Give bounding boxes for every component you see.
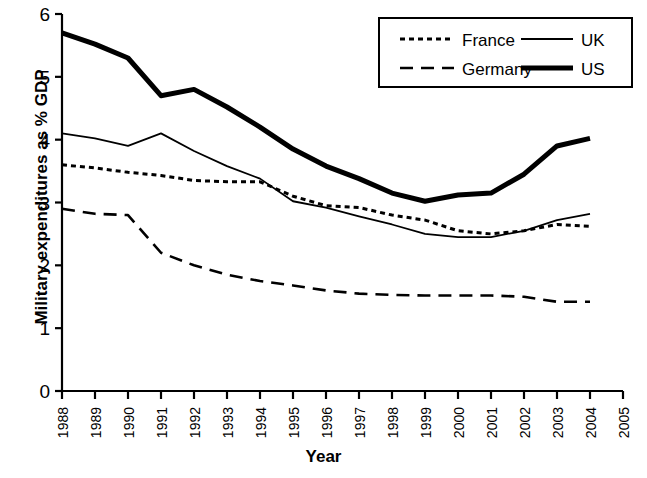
x-axis-tick-label: 1990 [121, 407, 137, 438]
line-chart-plot: 0123456 19881989199019911992199319941995… [0, 0, 647, 478]
x-axis-tick-label: 1996 [319, 407, 335, 438]
legend-label-france: France [462, 31, 515, 50]
x-axis-tick-label: 2002 [517, 407, 533, 438]
y-axis-tick-label: 0 [39, 381, 50, 402]
chart-figure: 0123456 19881989199019911992199319941995… [0, 0, 647, 478]
series-line-germany [62, 209, 590, 302]
y-axis-tick-label: 3 [39, 193, 50, 214]
chart-legend: FranceUKGermanyUS [379, 18, 632, 87]
x-axis-tick-label: 2004 [583, 407, 599, 438]
y-axis-tick-label: 6 [39, 4, 50, 25]
x-axis-tick-label: 1998 [385, 407, 401, 438]
y-axis-tick-label: 1 [39, 318, 50, 339]
x-axis-tick-label: 1988 [55, 407, 71, 438]
legend-label-us: US [581, 60, 605, 79]
x-axis-tick-label: 1999 [418, 407, 434, 438]
y-axis-tick-label: 4 [39, 130, 50, 151]
x-axis-tick-label: 1995 [286, 407, 302, 438]
x-axis: 1988198919901991199219931994199519961997… [55, 391, 632, 438]
x-axis-tick-label: 1992 [187, 407, 203, 438]
series-line-uk [62, 133, 590, 237]
y-axis-tick-label: 2 [39, 255, 50, 276]
x-axis-tick-label: 1989 [88, 407, 104, 438]
y-axis-tick-label: 5 [39, 67, 50, 88]
x-axis-tick-label: 2005 [616, 407, 632, 438]
x-axis-title: Year [0, 447, 647, 467]
x-axis-tick-label: 2000 [451, 407, 467, 438]
y-axis: 0123456 [39, 4, 62, 402]
legend-label-uk: UK [581, 31, 605, 50]
x-axis-tick-label: 2003 [550, 407, 566, 438]
x-axis-tick-label: 1994 [253, 407, 269, 438]
x-axis-tick-label: 1991 [154, 407, 170, 438]
x-axis-tick-label: 1997 [352, 407, 368, 438]
x-axis-tick-label: 2001 [484, 407, 500, 438]
series-line-france [62, 165, 590, 234]
x-axis-tick-label: 1993 [220, 407, 236, 438]
